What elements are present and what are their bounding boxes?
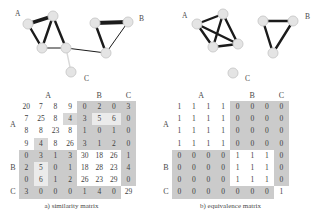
matrix-cell: 0 xyxy=(260,113,275,125)
matrix-cell: 0 xyxy=(274,125,289,137)
matrix-cell: 1 xyxy=(245,150,260,162)
matrix-cell: 4 xyxy=(92,186,107,198)
network-graphs: ABCABC xyxy=(0,0,318,90)
matrix-cell: 3 xyxy=(121,101,136,113)
matrix-cell: 0 xyxy=(63,186,78,198)
matrix-cell: 26 xyxy=(107,150,122,162)
matrix-cell: 0 xyxy=(230,113,245,125)
equivalence-matrix: ABCA11110000111100001111000011110000B000… xyxy=(160,90,289,199)
similarity-matrix: ABCA207890203725843560882381010948263120… xyxy=(7,90,136,199)
matrix-cell: 9 xyxy=(19,138,34,150)
matrix-cell: 0 xyxy=(121,174,136,186)
matrix-cell: 0 xyxy=(121,138,136,150)
matrix-cell: 0 xyxy=(274,138,289,150)
matrix-cell: 1 xyxy=(230,162,245,174)
row-group-label-C: C xyxy=(160,186,172,198)
matrix-cell: 0 xyxy=(216,174,231,186)
matrix-cell: 1 xyxy=(216,101,231,113)
matrix-cell: 8 xyxy=(48,138,63,150)
col-group-label-B: B xyxy=(230,90,274,101)
matrix-cell: 0 xyxy=(245,125,260,137)
matrix-cell: 6 xyxy=(34,174,49,186)
graph-node-a4 xyxy=(61,43,71,53)
matrix-cell: 8 xyxy=(63,125,78,137)
matrix-cell: 1 xyxy=(201,138,216,150)
matrix-cell: 0 xyxy=(19,150,34,162)
graph-node-a1 xyxy=(48,11,58,21)
graph-node-c xyxy=(66,67,76,77)
matrix-cell: 0 xyxy=(187,186,202,198)
matrix-cell: 5 xyxy=(34,162,49,174)
matrix-cell: 26 xyxy=(63,138,78,150)
matrix-cell: 3 xyxy=(77,113,92,125)
matrix-cell: 1 xyxy=(260,150,275,162)
cluster-label-C: C xyxy=(245,74,250,83)
matrix-cell: 0 xyxy=(230,186,245,198)
matrix-cell: 0 xyxy=(172,150,187,162)
matrix-cell: 1 xyxy=(63,162,78,174)
matrix-cell: 0 xyxy=(201,162,216,174)
matrix-cell: 1 xyxy=(187,101,202,113)
matrix-cell: 0 xyxy=(274,101,289,113)
matrix-cell: 0 xyxy=(172,186,187,198)
matrix-cell: 3 xyxy=(77,138,92,150)
matrix-cell: 4 xyxy=(121,162,136,174)
matrix-cell: 23 xyxy=(107,162,122,174)
matrix-cell: 2 xyxy=(19,162,34,174)
graph-node-b3 xyxy=(268,48,278,58)
matrix-cell: 5 xyxy=(92,113,107,125)
matrix-cell: 0 xyxy=(201,186,216,198)
matrix-cell: 9 xyxy=(63,101,78,113)
graph-node-b1 xyxy=(258,16,268,26)
similarity-matrix-caption: a) similarity matrix xyxy=(7,202,136,210)
matrix-cell: 0 xyxy=(230,125,245,137)
matrix-cell: 0 xyxy=(19,174,34,186)
matrix-cell: 0 xyxy=(201,174,216,186)
matrix-cell: 1 xyxy=(172,101,187,113)
matrix-cell: 0 xyxy=(260,101,275,113)
matrix-cell: 4 xyxy=(63,113,78,125)
matrix-cell: 18 xyxy=(92,150,107,162)
equivalence-graph: ABC xyxy=(182,9,310,83)
graph-node-c xyxy=(228,68,238,78)
matrix-corner xyxy=(160,90,172,101)
matrix-cell: 1 xyxy=(77,125,92,137)
matrix-cell: 1 xyxy=(245,174,260,186)
cluster-label-C: C xyxy=(84,74,89,83)
graph-node-a2 xyxy=(23,19,33,29)
graph-node-a3 xyxy=(208,42,218,52)
matrix-cell: 0 xyxy=(121,125,136,137)
graph-node-a2 xyxy=(192,19,202,29)
matrix-table: ABCA207890203725843560882381010948263120… xyxy=(7,90,136,199)
matrix-cell: 0 xyxy=(107,186,122,198)
row-group-label-A: A xyxy=(7,101,19,150)
matrix-cell: 0 xyxy=(201,150,216,162)
graph-node-a4 xyxy=(233,39,243,49)
matrix-cell: 30 xyxy=(77,150,92,162)
graph-node-a1 xyxy=(218,9,228,19)
matrix-cell: 8 xyxy=(34,125,49,137)
matrix-cell: 1 xyxy=(48,150,63,162)
matrix-cell: 0 xyxy=(260,186,275,198)
matrix-cell: 0 xyxy=(187,162,202,174)
matrix-cell: 0 xyxy=(216,162,231,174)
matrix-cell: 0 xyxy=(260,138,275,150)
row-group-label-C: C xyxy=(7,186,19,198)
matrix-cell: 8 xyxy=(19,125,34,137)
matrix-cell: 0 xyxy=(187,174,202,186)
matrix-cell: 7 xyxy=(34,101,49,113)
graph-node-a3 xyxy=(37,43,47,53)
matrix-cell: 1 xyxy=(172,138,187,150)
matrix-cell: 0 xyxy=(107,101,122,113)
matrix-cell: 8 xyxy=(48,101,63,113)
matrix-cell: 1 xyxy=(172,113,187,125)
matrix-cell: 0 xyxy=(245,186,260,198)
matrix-cell: 3 xyxy=(19,186,34,198)
matrix-cell: 7 xyxy=(19,113,34,125)
matrix-cell: 1 xyxy=(201,101,216,113)
equivalence-matrix-caption: b) equivalence matrix xyxy=(166,202,295,210)
matrix-cell: 0 xyxy=(48,162,63,174)
matrix-cell: 0 xyxy=(274,113,289,125)
row-group-label-B: B xyxy=(160,150,172,187)
matrix-corner xyxy=(7,90,19,101)
